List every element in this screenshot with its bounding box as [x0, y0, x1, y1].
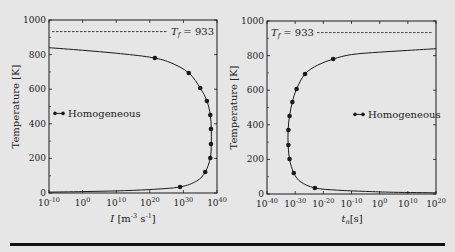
data-point: [287, 157, 292, 162]
y-tick-label: 200: [29, 153, 46, 163]
data-point: [153, 56, 158, 61]
y-tick-label: 1000: [23, 15, 46, 25]
legend-label: Homogeneous: [68, 108, 141, 119]
figure-canvas: 0200400600800100010-10100101010201030104…: [0, 0, 455, 252]
data-point: [203, 170, 208, 175]
data-point: [205, 99, 210, 104]
x-tick-label: 10-10: [38, 196, 60, 208]
x-tick-label: 1030: [174, 196, 194, 208]
bottom-rule: [10, 243, 445, 246]
data-point: [294, 87, 299, 92]
data-point: [303, 72, 308, 77]
y-tick-label: 400: [247, 120, 264, 130]
data-point: [198, 86, 203, 91]
data-point: [331, 57, 336, 62]
chart-nucleation-time: 0200400600800100010-4010-3010-2010-10100…: [228, 16, 446, 226]
melting-point-label: Tf = 933: [271, 27, 314, 40]
x-tick-label: 10-40: [256, 197, 278, 209]
x-tick-label: 1010: [398, 197, 418, 209]
fit-curve: [288, 49, 436, 193]
data-point: [208, 156, 213, 161]
y-tick-label: 0: [258, 189, 264, 199]
y-axis-label: Temperature [K]: [10, 64, 21, 148]
data-point: [209, 127, 214, 132]
x-axis-label: I [m-3 s-1]: [109, 212, 156, 224]
legend-label: Homogeneous: [368, 109, 441, 120]
y-tick-label: 800: [247, 51, 264, 61]
y-tick-label: 800: [29, 50, 46, 60]
data-point: [286, 143, 291, 148]
x-tick-label: 100: [75, 196, 91, 208]
legend-marker: [61, 112, 65, 116]
x-axis-label: tn[s]: [341, 213, 362, 226]
data-point: [290, 100, 295, 105]
y-tick-label: 400: [29, 119, 46, 129]
x-tick-label: 100: [372, 197, 388, 209]
plot-frame: [49, 20, 217, 193]
y-tick-label: 1000: [241, 16, 264, 26]
legend-marker: [353, 113, 357, 117]
x-tick-label: 10-20: [312, 197, 334, 209]
x-tick-label: 1040: [207, 196, 227, 208]
data-point: [208, 113, 213, 118]
plot-frame: [267, 21, 436, 194]
legend-marker: [361, 113, 365, 117]
data-point: [286, 128, 291, 133]
data-point: [178, 185, 183, 190]
melting-point-label: Tf = 933: [171, 26, 214, 39]
data-point: [287, 114, 292, 119]
y-tick-label: 0: [40, 188, 46, 198]
data-point: [209, 142, 214, 147]
chart-nucleation-rate: 0200400600800100010-10100101010201030104…: [10, 15, 227, 224]
x-tick-label: 1010: [106, 196, 126, 208]
data-point: [186, 71, 191, 76]
y-axis-label: Temperature [K]: [228, 65, 239, 149]
fit-curve: [49, 48, 211, 192]
x-tick-label: 1020: [140, 196, 160, 208]
y-tick-label: 200: [247, 154, 264, 164]
y-tick-label: 600: [247, 85, 264, 95]
legend-marker: [53, 112, 57, 116]
data-point: [291, 171, 296, 176]
x-tick-label: 10-30: [284, 197, 306, 209]
x-tick-label: 1020: [426, 197, 446, 209]
y-tick-label: 600: [29, 84, 46, 94]
x-tick-label: 10-10: [341, 197, 363, 209]
data-point: [313, 186, 318, 191]
